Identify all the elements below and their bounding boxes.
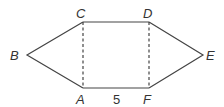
vertex-label-b: B (10, 48, 19, 63)
vertex-label-e: E (206, 48, 215, 63)
hexagon-figure: C D B E A F 5 (0, 0, 224, 107)
vertex-label-d: D (143, 6, 152, 21)
vertex-label-f: F (143, 92, 152, 107)
edge-d-e-f (149, 22, 203, 88)
geometry-diagram: C D B E A F 5 (0, 0, 224, 107)
edge-a-b-c (27, 22, 83, 88)
vertex-label-a: A (75, 92, 85, 107)
vertex-label-c: C (76, 6, 86, 21)
measurement-label-af: 5 (113, 92, 120, 107)
